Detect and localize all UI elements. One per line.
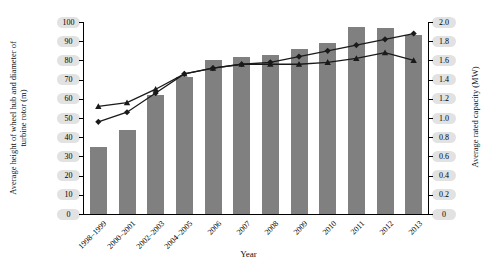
left-axis-tick-label: 0: [57, 209, 80, 220]
left-axis-tick-label: 100: [57, 17, 80, 28]
right-axis-tick-mark: [429, 176, 433, 177]
diamond-marker: [411, 30, 417, 36]
left-axis-tick-mark: [79, 80, 83, 81]
right-axis-tick-label: 2.0: [432, 17, 456, 28]
line-path: [98, 34, 413, 122]
left-axis-tick-mark: [79, 41, 83, 42]
right-axis-tick-label: 0: [432, 209, 456, 220]
triangle-marker: [152, 86, 158, 92]
right-axis-tick-mark: [429, 118, 433, 119]
right-axis-title: Average rated capacity (MW): [470, 42, 480, 192]
line-path: [98, 53, 413, 107]
right-axis-tick-mark: [429, 22, 433, 23]
right-axis-tick-mark: [429, 214, 433, 215]
right-axis-tick-label: 1.6: [432, 55, 456, 66]
left-axis-tick-mark: [79, 99, 83, 100]
left-axis-tick-label: 50: [57, 113, 80, 124]
left-axis-tick-mark: [79, 60, 83, 61]
right-axis-tick-label: 0.4: [432, 170, 456, 181]
left-axis-tick-label: 70: [57, 74, 80, 85]
left-axis-tick-mark: [79, 195, 83, 196]
diamond-marker: [95, 119, 101, 125]
right-axis-tick-mark: [429, 156, 433, 157]
diamond-marker: [325, 48, 331, 54]
right-axis-tick-mark: [429, 80, 433, 81]
right-axis-tick-label: 0.8: [432, 132, 456, 143]
diamond-marker: [382, 36, 388, 42]
line-series: [84, 22, 428, 214]
diamond-marker: [353, 42, 359, 48]
right-axis-tick-label: 1.8: [432, 36, 456, 47]
right-axis-tick-label: 0.6: [432, 151, 456, 162]
right-axis-tick-label: 0.2: [432, 189, 456, 200]
right-axis-tick-mark: [429, 137, 433, 138]
left-axis-tick-label: 90: [57, 36, 80, 47]
right-axis-tick-mark: [429, 99, 433, 100]
right-axis-tick-mark: [429, 195, 433, 196]
left-axis-tick-mark: [79, 156, 83, 157]
plot-area: [84, 22, 428, 214]
left-axis-tick-mark: [79, 118, 83, 119]
left-axis-tick-mark: [79, 22, 83, 23]
left-axis-tick-label: 60: [57, 93, 80, 104]
triangle-marker: [382, 50, 388, 56]
right-axis-tick-mark: [429, 60, 433, 61]
right-axis-tick-label: 1.2: [432, 93, 456, 104]
left-axis-tick-mark: [79, 176, 83, 177]
left-axis-title: Average height of wheel hub and diameter…: [8, 38, 28, 198]
left-axis-tick-mark: [79, 214, 83, 215]
left-axis-tick-label: 30: [57, 151, 80, 162]
right-axis-tick-mark: [429, 41, 433, 42]
left-axis-tick-label: 10: [57, 189, 80, 200]
left-axis-tick-label: 20: [57, 170, 80, 181]
left-axis-tick-mark: [79, 137, 83, 138]
left-axis-tick-label: 80: [57, 55, 80, 66]
diamond-marker: [296, 53, 302, 59]
x-axis-line: [83, 214, 429, 215]
right-axis-tick-label: 1.0: [432, 113, 456, 124]
right-axis-tick-label: 1.4: [432, 74, 456, 85]
wind-turbine-chart: Average height of wheel hub and diameter…: [0, 0, 497, 275]
left-axis-tick-label: 40: [57, 132, 80, 143]
